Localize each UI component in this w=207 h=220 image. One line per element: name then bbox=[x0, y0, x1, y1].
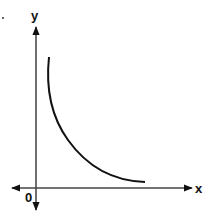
x-axis-label: x bbox=[195, 181, 203, 196]
dot-marker bbox=[2, 17, 4, 19]
curve bbox=[48, 57, 145, 182]
y-axis-label: y bbox=[31, 8, 39, 23]
origin-label: 0 bbox=[25, 190, 32, 205]
graph-canvas: y x 0 bbox=[0, 0, 207, 220]
